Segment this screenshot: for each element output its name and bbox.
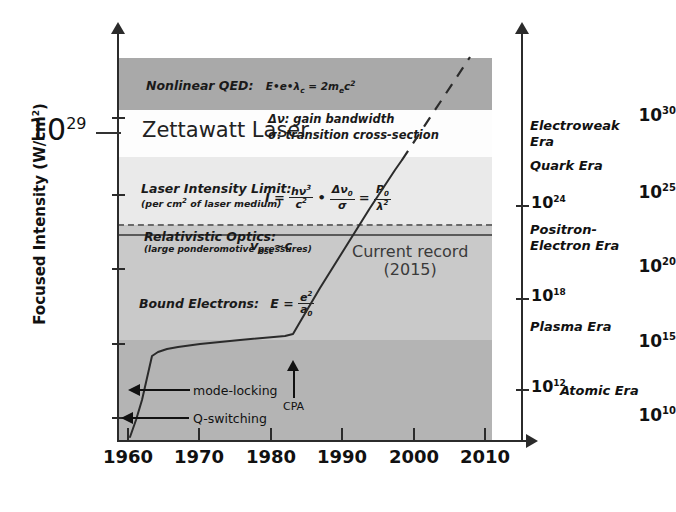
secondary-y-axis-arrow-icon bbox=[515, 22, 529, 34]
x-tick-1960 bbox=[127, 428, 129, 441]
current-record-line1: Current record bbox=[352, 243, 468, 261]
equation-relativistic-optics: vosc~c bbox=[250, 238, 292, 256]
y-tick-30 bbox=[112, 117, 125, 119]
x-tick-1990 bbox=[341, 428, 343, 441]
label-cpa: CPA bbox=[283, 400, 304, 413]
y-tick-25 bbox=[112, 194, 125, 196]
gain-bandwidth-line: Δν: gain bandwidth bbox=[268, 112, 439, 128]
x-axis-arrow-icon bbox=[526, 434, 538, 448]
y2-tick-12 bbox=[516, 389, 529, 391]
cpa-arrow-line bbox=[293, 368, 295, 398]
era-label-plasma: Plasma Era bbox=[530, 319, 611, 334]
mode-locking-arrow-line bbox=[140, 389, 190, 391]
era-label-quark: Quark Era bbox=[530, 158, 603, 173]
era-label-positron-electron: Positron- Electron Era bbox=[530, 222, 619, 255]
y-tick-label-15: 1015 bbox=[564, 331, 676, 351]
y2-tick-label-24: 1024 bbox=[531, 193, 566, 212]
x-tick-label-1990: 1990 bbox=[307, 446, 377, 467]
y-axis-arrow-icon bbox=[111, 22, 125, 34]
equation-laser-intensity-limit: I = hν3 c2 • Δν0 σ = P0 λ2 bbox=[265, 184, 391, 212]
y-axis-line bbox=[117, 30, 119, 442]
x-tick-1970 bbox=[198, 428, 200, 441]
x-tick-label-2000: 2000 bbox=[379, 446, 449, 467]
y2-tick-label-18: 1018 bbox=[531, 286, 566, 305]
annotation-nonlinear-qed-label: Nonlinear QED: bbox=[146, 78, 253, 93]
label-q-switching: Q-switching bbox=[193, 411, 267, 426]
x-tick-label-1970: 1970 bbox=[164, 446, 234, 467]
x-tick-label-1980: 1980 bbox=[236, 446, 306, 467]
cpa-arrowhead-icon bbox=[287, 360, 299, 371]
x-axis-line bbox=[117, 440, 528, 442]
secondary-y-axis-line bbox=[521, 30, 523, 442]
mode-locking-arrowhead-icon bbox=[128, 384, 140, 396]
y-tick-20 bbox=[112, 268, 125, 270]
x-tick-2010 bbox=[484, 428, 486, 441]
bound-electrons-label: Bound Electrons: bbox=[139, 296, 259, 311]
y-tick-15 bbox=[112, 343, 125, 345]
era-electroweak-line1: Electroweak bbox=[530, 118, 620, 134]
x-tick-label-2010: 2010 bbox=[450, 446, 520, 467]
q-switching-arrow-line bbox=[133, 417, 189, 419]
y-tick-label-25: 1025 bbox=[564, 182, 676, 202]
annotation-nonlinear-qed: Nonlinear QED: E•e•λc = 2mec2 bbox=[146, 78, 356, 95]
x-tick-1980 bbox=[270, 428, 272, 441]
annotation-gain-definitions: Δν: gain bandwidth σ: transition cross-s… bbox=[268, 112, 439, 143]
x-tick-2000 bbox=[413, 428, 415, 441]
dashed-limit-line bbox=[118, 224, 492, 226]
cross-section-line: σ: transition cross-section bbox=[268, 128, 439, 144]
era-positron-line1: Positron- bbox=[530, 222, 619, 238]
equation-nonlinear-qed: E•e•λc = 2mec2 bbox=[266, 80, 356, 92]
annotation-current-record: Current record (2015) bbox=[352, 243, 468, 280]
label-mode-locking: mode-locking bbox=[193, 383, 278, 398]
era-label-atomic: Atomic Era bbox=[560, 383, 639, 398]
chart-canvas: 1030 1025 1020 1015 1010 Focused Intensi… bbox=[0, 0, 676, 512]
annotation-bound-electrons: Bound Electrons: E = e2 a0 bbox=[139, 291, 314, 319]
current-record-line2: (2015) bbox=[352, 261, 468, 279]
era-label-electroweak: Electroweak Era bbox=[530, 118, 620, 151]
callout-leader-line bbox=[96, 132, 121, 134]
x-tick-label-1960: 1960 bbox=[93, 446, 163, 467]
y-tick-label-10: 1010 bbox=[564, 405, 676, 425]
zettawatt-callout-value: 1029 bbox=[28, 112, 87, 147]
y2-tick-24 bbox=[516, 205, 529, 207]
era-electroweak-line2: Era bbox=[530, 134, 620, 150]
q-switching-arrowhead-icon bbox=[121, 412, 133, 424]
y-tick-label-20: 1020 bbox=[564, 256, 676, 276]
y2-tick-18 bbox=[516, 298, 529, 300]
equation-bound-electrons: E = e2 a0 bbox=[270, 296, 314, 311]
era-positron-line2: Electron Era bbox=[530, 238, 619, 254]
